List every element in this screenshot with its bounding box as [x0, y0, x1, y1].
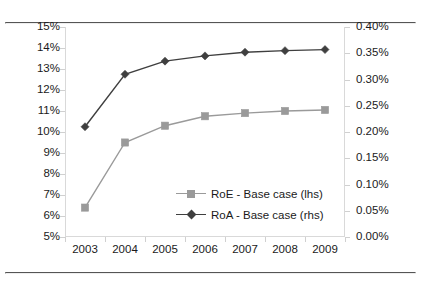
chart-legend: RoE - Base case (lhs) RoA - Base case (r… [176, 183, 348, 225]
right-axis-tick-label: 0.40% [356, 21, 406, 33]
right-axis-tick [345, 158, 350, 159]
x-axis-tick [105, 237, 106, 242]
left-axis-tick-label: 7% [20, 189, 60, 201]
right-axis-tick-label: 0.30% [356, 74, 406, 86]
left-axis-tick-label: 13% [20, 63, 60, 75]
data-point-square [161, 122, 168, 129]
right-axis-tick-label: 0.20% [356, 126, 406, 138]
x-axis-tick [185, 237, 186, 242]
data-point-square [81, 204, 88, 211]
left-axis-tick-label: 8% [20, 168, 60, 180]
data-point-square [241, 110, 248, 117]
right-axis-tick-label: 0.35% [356, 47, 406, 59]
right-axis-tick-label: 0.15% [356, 152, 406, 164]
legend-item-roa[interactable]: RoA - Base case (rhs) [176, 204, 348, 225]
diamond-marker-icon [186, 210, 196, 220]
left-axis-tick-label: 10% [20, 126, 60, 138]
right-axis-tick-label: 0.25% [356, 100, 406, 112]
left-axis-tick-label: 12% [20, 84, 60, 96]
legend-key-roa [176, 209, 206, 221]
left-axis-tick-label: 11% [20, 105, 60, 117]
right-axis-tick [345, 80, 350, 81]
x-axis-tick [345, 237, 346, 242]
x-axis-tick [305, 237, 306, 242]
x-axis-tick [65, 237, 66, 242]
legend-item-roe[interactable]: RoE - Base case (lhs) [176, 183, 348, 204]
legend-label-roa: RoA - Base case (rhs) [211, 209, 323, 221]
chart-figure: 15%14%13%12%11%10%9%8%7%6%5% 0.40%0.35%0… [0, 0, 421, 281]
left-axis-tick-label: 5% [20, 231, 60, 243]
data-point-square [201, 113, 208, 120]
data-point-square [121, 139, 128, 146]
x-axis-tick [265, 237, 266, 242]
data-point-diamond [241, 48, 249, 56]
left-axis-tick-label: 6% [20, 210, 60, 222]
top-divider [5, 22, 416, 24]
data-point-diamond [281, 47, 289, 55]
right-axis-tick-label: 0.00% [356, 231, 406, 243]
x-axis-tick [225, 237, 226, 242]
x-axis-tick [145, 237, 146, 242]
right-axis-tick [345, 132, 350, 133]
left-axis-tick-label: 14% [20, 42, 60, 54]
data-point-square [321, 106, 328, 113]
right-axis-tick [345, 53, 350, 54]
right-axis-tick [345, 27, 350, 28]
bottom-divider [5, 272, 416, 274]
square-marker-icon [187, 190, 195, 198]
left-axis-tick-label: 9% [20, 147, 60, 159]
right-axis-tick-label: 0.05% [356, 205, 406, 217]
right-axis-tick [345, 106, 350, 107]
x-axis-tick-label: 2009 [302, 244, 348, 256]
data-point-diamond [321, 46, 329, 54]
right-axis-tick-label: 0.10% [356, 179, 406, 191]
left-axis-tick-label: 15% [20, 21, 60, 33]
legend-key-roe [176, 188, 206, 200]
data-point-diamond [161, 57, 169, 65]
legend-label-roe: RoE - Base case (lhs) [211, 188, 323, 200]
data-point-square [281, 107, 288, 114]
data-point-diamond [201, 52, 209, 60]
